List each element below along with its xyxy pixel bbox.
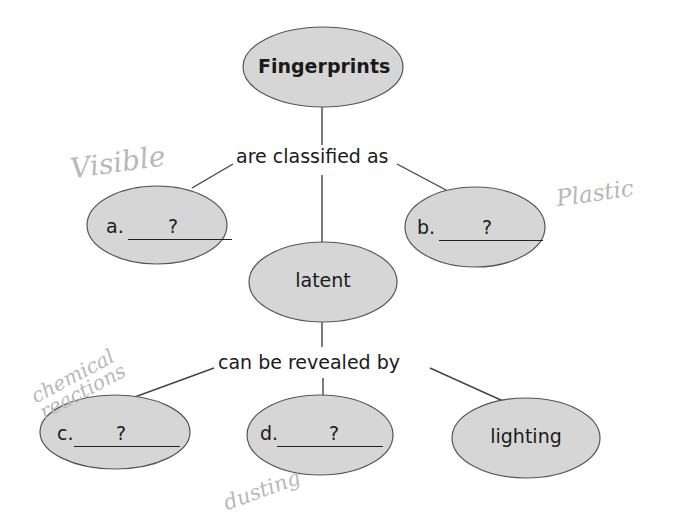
blank-d[interactable]: d. ? [260,422,385,450]
root-label: Fingerprints [258,55,388,77]
blank-d-letter: d. [260,422,278,444]
latent-label: latent [249,269,397,291]
blank-d-line [277,446,383,447]
blank-b-letter: b. [417,216,435,238]
blank-c-placeholder: ? [116,422,126,444]
edge-link2-to-lighting [430,368,503,401]
blank-b-line [439,240,543,241]
edge-link2-to-c [132,368,214,398]
link-phrase-classified: are classified as [234,145,391,167]
blank-c-letter: c. [57,422,74,444]
lighting-label: lighting [452,425,600,447]
edge-link1-to-a [192,164,233,188]
blank-c-line [74,446,180,447]
blank-a-placeholder: ? [168,215,178,237]
blank-c[interactable]: c. ? [57,422,182,450]
blank-d-placeholder: ? [329,422,339,444]
blank-b[interactable]: b. ? [417,216,545,244]
link-phrase-revealed: can be revealed by [216,351,402,373]
edge-link1-to-b [397,164,446,190]
blank-b-placeholder: ? [482,216,492,238]
blank-a-letter: a. [106,215,124,237]
blank-a-line [128,239,232,240]
blank-a[interactable]: a. ? [106,215,231,243]
